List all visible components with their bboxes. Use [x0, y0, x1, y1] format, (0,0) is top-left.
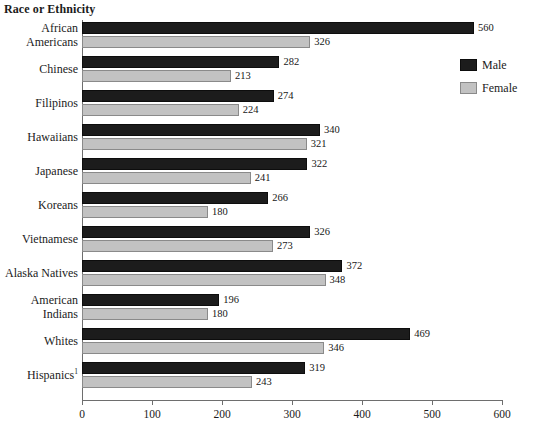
bar-male	[82, 260, 342, 272]
bar-male	[82, 124, 320, 136]
bar-value-label: 560	[478, 20, 494, 35]
bar-female	[82, 70, 231, 82]
bar-male	[82, 328, 410, 340]
x-axis-tick-label: 300	[272, 407, 312, 421]
bar-value-label: 213	[235, 68, 251, 83]
category-label-line: American	[0, 293, 78, 307]
x-axis-tick	[502, 400, 503, 405]
bar-male	[82, 226, 310, 238]
bar-value-label: 243	[256, 374, 272, 389]
bar-group: 196180	[82, 294, 502, 324]
bar-row: 340	[82, 124, 502, 136]
bar-value-label: 469	[414, 326, 430, 341]
bar-row: 243	[82, 376, 502, 388]
bar-male	[82, 158, 307, 170]
category-label: AfricanAmericans	[0, 21, 78, 49]
category-label-line: Alaska Natives	[0, 266, 78, 280]
category-label-line: Vietnamese	[0, 232, 78, 246]
bar-group: 282213	[82, 56, 502, 86]
bar-value-label: 180	[212, 204, 228, 219]
bar-value-label: 274	[278, 88, 294, 103]
page-title: Race or Ethnicity	[4, 2, 95, 17]
bar-row: 241	[82, 172, 502, 184]
bar-female	[82, 138, 307, 150]
bar-value-label: 326	[314, 34, 330, 49]
bar-value-label: 266	[272, 190, 288, 205]
category-label: Whites	[0, 334, 78, 348]
bar-value-label: 241	[255, 170, 271, 185]
x-axis-tick	[222, 400, 223, 405]
category-label: Japanese	[0, 164, 78, 178]
bar-value-label: 372	[346, 258, 362, 273]
category-label: Hispanics1	[0, 368, 78, 382]
legend-swatch-male	[460, 59, 477, 71]
x-axis-tick	[432, 400, 433, 405]
bar-female	[82, 342, 324, 354]
bar-row: 273	[82, 240, 502, 252]
bar-row: 319	[82, 362, 502, 374]
category-label: Koreans	[0, 198, 78, 212]
bar-value-label: 321	[311, 136, 327, 151]
bar-female	[82, 104, 239, 116]
bar-female	[82, 308, 208, 320]
x-axis-tick-label: 0	[62, 407, 102, 421]
bar-male	[82, 22, 474, 34]
bar-female	[82, 206, 208, 218]
bar-row: 266	[82, 192, 502, 204]
category-label: Hawaiians	[0, 130, 78, 144]
bar-row: 348	[82, 274, 502, 286]
bar-row: 326	[82, 36, 502, 48]
footnote-marker: 1	[74, 367, 78, 376]
bar-female	[82, 240, 273, 252]
bar-value-label: 322	[311, 156, 327, 171]
plot-area: 5603262822132742243403213222412661803262…	[82, 22, 502, 397]
bar-row: 326	[82, 226, 502, 238]
category-label-line: Koreans	[0, 198, 78, 212]
bar-row: 469	[82, 328, 502, 340]
bar-value-label: 282	[283, 54, 299, 69]
bar-group: 266180	[82, 192, 502, 222]
bar-row: 196	[82, 294, 502, 306]
bar-group: 560326	[82, 22, 502, 52]
bar-value-label: 346	[328, 340, 344, 355]
bar-group: 326273	[82, 226, 502, 256]
bar-row: 322	[82, 158, 502, 170]
bar-value-label: 273	[277, 238, 293, 253]
bar-female	[82, 274, 326, 286]
bar-male	[82, 90, 274, 102]
bar-male	[82, 56, 279, 68]
x-axis-tick	[362, 400, 363, 405]
bar-row: 372	[82, 260, 502, 272]
bar-male	[82, 294, 219, 306]
category-label: Alaska Natives	[0, 266, 78, 280]
bar-value-label: 348	[330, 272, 346, 287]
bar-row: 213	[82, 70, 502, 82]
bar-row: 180	[82, 206, 502, 218]
bar-group: 319243	[82, 362, 502, 392]
category-label-line: Whites	[0, 334, 78, 348]
bar-row: 321	[82, 138, 502, 150]
x-axis-tick	[152, 400, 153, 405]
bar-row: 224	[82, 104, 502, 116]
x-axis-tick-label: 600	[482, 407, 522, 421]
category-label-line: Americans	[0, 35, 78, 49]
x-axis-tick-label: 400	[342, 407, 382, 421]
legend-label: Male	[482, 57, 507, 73]
legend-label: Female	[482, 80, 517, 96]
bar-row: 274	[82, 90, 502, 102]
x-axis-tick-label: 200	[202, 407, 242, 421]
bar-group: 372348	[82, 260, 502, 290]
x-axis-tick	[82, 400, 83, 405]
bar-group: 469346	[82, 328, 502, 358]
x-axis-tick-label: 500	[412, 407, 452, 421]
bar-group: 340321	[82, 124, 502, 154]
legend-swatch-female	[460, 82, 477, 94]
bar-female	[82, 36, 310, 48]
bar-chart: Race or Ethnicity AfricanAmericansChines…	[0, 0, 537, 431]
x-axis-tick-label: 100	[132, 407, 172, 421]
bar-group: 322241	[82, 158, 502, 188]
bar-value-label: 340	[324, 122, 340, 137]
bar-female	[82, 172, 251, 184]
category-label-line: Hawaiians	[0, 130, 78, 144]
bar-male	[82, 192, 268, 204]
